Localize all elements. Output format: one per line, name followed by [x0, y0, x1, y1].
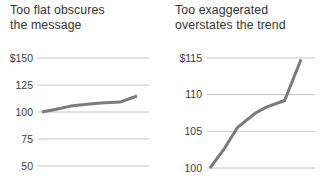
y-tick-label: 100 [15, 106, 33, 118]
chart-title-line: overstates the trend [175, 18, 286, 33]
chart-flat-scale: Too flat obscures the message $150125100… [0, 0, 162, 183]
y-tick-label: 125 [15, 79, 33, 91]
chart-title: Too flat obscures the message [10, 3, 105, 32]
chart-title-line: the message [10, 18, 105, 33]
y-tick-label: 105 [184, 125, 202, 137]
line-chart-svg: $115110105100 [162, 48, 325, 183]
chart-title: Too exaggerated overstates the trend [175, 3, 286, 32]
y-tick-label: $150 [10, 52, 34, 64]
data-line [210, 60, 301, 169]
y-tick-label: 75 [21, 133, 33, 145]
line-chart-svg: $1501251007550 [0, 48, 162, 183]
chart-title-line: Too flat obscures [10, 3, 105, 18]
chart-comparison-panel: Too flat obscures the message $150125100… [0, 0, 325, 183]
y-tick-label: $115 [179, 52, 202, 64]
y-tick-label: 100 [184, 162, 202, 174]
y-tick-label: 50 [21, 160, 33, 172]
chart-exaggerated-scale: Too exaggerated overstates the trend $11… [162, 0, 325, 183]
y-tick-label: 110 [185, 88, 202, 100]
chart-title-line: Too exaggerated [175, 3, 286, 18]
data-line [42, 96, 137, 112]
